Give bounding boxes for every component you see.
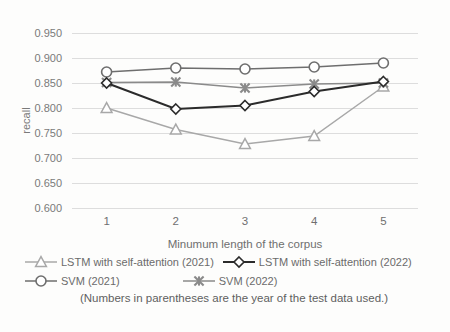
data-point-marker xyxy=(36,276,46,286)
legend-item-label: LSTM with self-attention (2021) xyxy=(61,256,214,268)
legend-marker-triangle-icon xyxy=(24,255,58,269)
y-tick-label: 0.850 xyxy=(34,77,62,89)
data-point-marker xyxy=(309,62,319,72)
data-point-marker xyxy=(378,77,388,87)
data-point-marker xyxy=(240,101,250,111)
legend-item[interactable]: SVM (2022) xyxy=(182,271,278,290)
legend-marker-x-icon xyxy=(182,274,216,288)
x-axis-title: Minumum length of the corpus xyxy=(168,238,323,250)
chart-legend: LSTM with self-attention (2021)LSTM with… xyxy=(0,252,450,332)
legend-footnote: (Numbers in parentheses are the year of … xyxy=(0,292,450,304)
data-point-marker xyxy=(240,64,250,74)
legend-item-label: SVM (2022) xyxy=(219,275,278,287)
legend-item[interactable]: LSTM with self-attention (2021) xyxy=(24,252,214,271)
y-tick-label: 0.950 xyxy=(34,27,62,39)
legend-marker-circle-icon xyxy=(24,274,58,288)
data-point-marker xyxy=(102,67,112,77)
data-point-marker xyxy=(171,104,181,114)
data-point-marker xyxy=(171,63,181,73)
legend-marker-diamond-icon xyxy=(222,255,256,269)
y-tick-label: 0.700 xyxy=(34,152,62,164)
x-tick-label: 1 xyxy=(103,215,109,227)
x-tick-label: 5 xyxy=(380,215,386,227)
legend-item-label: LSTM with self-attention (2022) xyxy=(259,256,412,268)
series-group xyxy=(102,58,389,77)
series-group xyxy=(102,77,388,92)
legend-row: SVM (2021)SVM (2022) xyxy=(0,271,450,290)
y-tick-label: 0.900 xyxy=(34,52,62,64)
y-tick-label: 0.800 xyxy=(34,102,62,114)
x-tick-label: 4 xyxy=(311,215,318,227)
data-point-marker xyxy=(378,58,388,68)
legend-item[interactable]: SVM (2021) xyxy=(24,271,120,290)
y-tick-label: 0.750 xyxy=(34,127,62,139)
data-point-marker xyxy=(234,257,244,267)
y-axis-title: recall xyxy=(20,107,32,133)
legend-row: LSTM with self-attention (2021)LSTM with… xyxy=(0,252,450,271)
x-tick-label: 3 xyxy=(242,215,248,227)
legend-item-label: SVM (2021) xyxy=(61,275,120,287)
data-point-marker xyxy=(309,131,320,141)
series-line xyxy=(107,87,384,145)
legend-item[interactable]: LSTM with self-attention (2022) xyxy=(222,252,412,271)
y-tick-label: 0.650 xyxy=(34,177,62,189)
recall-line-chart: 0.6000.6500.7000.7500.8000.8500.9000.950… xyxy=(0,0,450,332)
x-tick-label: 2 xyxy=(173,215,179,227)
y-tick-label: 0.600 xyxy=(34,202,62,214)
